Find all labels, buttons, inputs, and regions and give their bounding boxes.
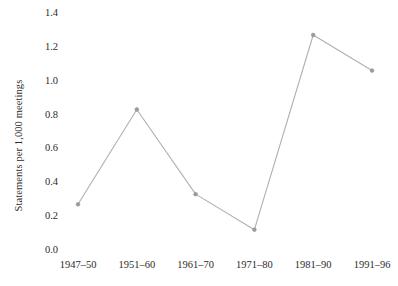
data-point-marker	[76, 202, 80, 206]
plot-area	[0, 0, 398, 286]
x-axis-tick-labels: 1947–501951–601961–701971–801981–901991–…	[0, 258, 398, 280]
data-point-marker	[253, 228, 257, 232]
data-point-marker	[311, 33, 315, 37]
data-point-marker	[135, 108, 139, 112]
data-point-marker	[370, 69, 374, 73]
data-point-marker	[194, 192, 198, 196]
line-chart: Statements per 1,000 meetings 0.00.20.40…	[0, 0, 398, 286]
series-line-statements	[78, 35, 372, 230]
series-markers	[76, 33, 374, 231]
x-axis-tick-label: 1991–96	[337, 258, 398, 271]
